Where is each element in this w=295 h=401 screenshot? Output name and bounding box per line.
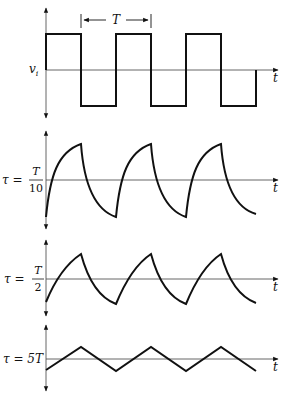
t-label: t <box>273 181 278 195</box>
vi-label: vi <box>29 62 39 78</box>
tau-numerator: T <box>32 165 41 178</box>
tau-prefix: τ = <box>4 272 25 286</box>
tau-prefix: τ = <box>2 173 23 187</box>
rc-response-diagram: T vi t τ = T 10 t τ = T 2 t τ = 5T t <box>0 0 295 401</box>
tau-denominator: 10 <box>29 182 43 195</box>
panel-input-square-wave: T vi t <box>29 8 278 118</box>
t-label: t <box>273 360 278 374</box>
tau-denominator: 2 <box>35 281 42 294</box>
panel-tau-T-over-10: τ = T 10 t <box>2 131 278 229</box>
tau-label: τ = 5T <box>3 352 44 366</box>
response-wave-tau-T-10 <box>46 144 256 217</box>
period-label: T <box>112 13 121 27</box>
tau-numerator: T <box>34 264 43 277</box>
panel-tau-T-over-2: τ = T 2 t <box>4 240 278 316</box>
t-label: t <box>273 71 278 85</box>
t-label: t <box>273 280 278 294</box>
panel-tau-5T: τ = 5T t <box>3 325 278 391</box>
